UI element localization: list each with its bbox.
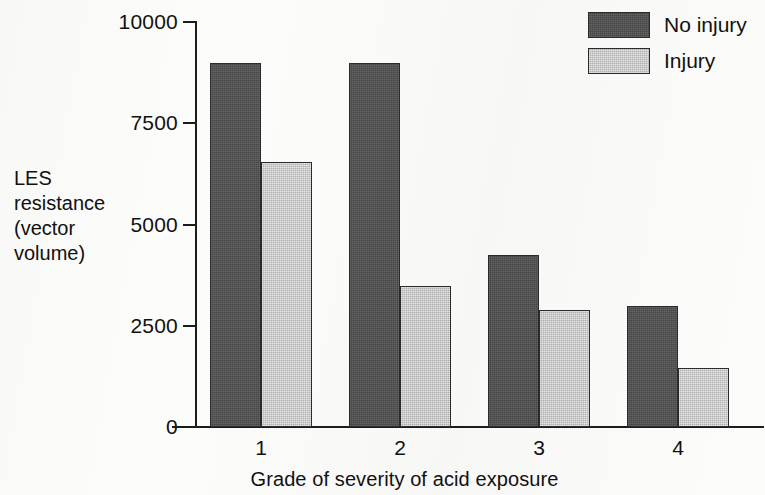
- y-tick-label-7500: 7500: [130, 111, 178, 135]
- bar-no-injury-grade-3: [488, 255, 539, 427]
- bar-injury-grade-4: [678, 368, 729, 427]
- bar-injury-grade-3: [539, 310, 590, 427]
- legend-swatch-injury: [588, 48, 650, 74]
- bar-no-injury-grade-2: [349, 63, 400, 428]
- x-tick-label-1: 1: [255, 436, 267, 460]
- legend-label-injury: Injury: [664, 49, 715, 73]
- y-tick-7500: [183, 122, 195, 124]
- bar-injury-grade-1: [261, 162, 312, 427]
- x-tick-label-4: 4: [672, 436, 684, 460]
- legend-swatch-no-injury: [588, 12, 650, 38]
- y-tick-2500: [183, 325, 195, 327]
- bar-no-injury-grade-1: [210, 63, 261, 428]
- y-tick-5000: [183, 224, 195, 226]
- y-tick-label-5000: 5000: [130, 213, 178, 237]
- x-axis-title: Grade of severity of acid exposure: [0, 468, 765, 491]
- y-axis-title-line-1: LES: [14, 166, 174, 191]
- y-tick-label-2500: 2500: [130, 314, 178, 338]
- x-axis-title-text: Grade of severity of acid exposure: [251, 468, 559, 491]
- y-axis-title-line-4: volume): [14, 241, 174, 266]
- legend-label-no-injury: No injury: [664, 13, 747, 37]
- legend: No injury Injury: [588, 12, 747, 84]
- bar-injury-grade-2: [400, 286, 451, 427]
- bar-no-injury-grade-4: [627, 306, 678, 428]
- legend-item-no-injury: No injury: [588, 12, 747, 38]
- y-tick-label-10000: 10000: [119, 10, 178, 34]
- y-tick-10000: [183, 21, 195, 23]
- x-tick-label-3: 3: [533, 436, 545, 460]
- x-tick-label-2: 2: [394, 436, 406, 460]
- bar-chart-figure: LES resistance (vector volume) 10000 750…: [0, 0, 765, 495]
- legend-item-injury: Injury: [588, 48, 747, 74]
